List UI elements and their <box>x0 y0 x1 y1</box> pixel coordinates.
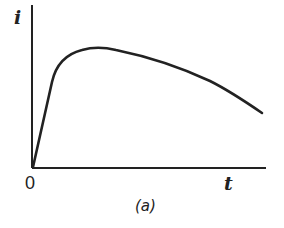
current-curve <box>33 48 262 167</box>
chart-plot-area <box>0 0 284 228</box>
y-axis-label: i <box>14 8 21 27</box>
x-axis-label: t <box>224 174 233 193</box>
current-vs-time-figure: i t 0 (a) <box>0 0 284 228</box>
origin-label: 0 <box>25 174 35 192</box>
figure-caption: (a) <box>135 199 156 214</box>
